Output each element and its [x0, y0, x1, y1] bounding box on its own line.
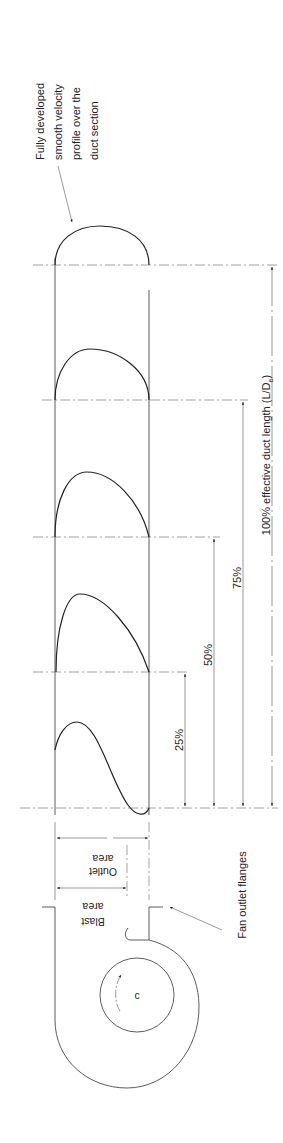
fan-housing — [42, 907, 199, 1088]
label-100-pct: 100% effective duct length (L/De) — [260, 375, 274, 535]
label-50-pct: 50% — [202, 644, 214, 666]
profile-100 — [55, 226, 149, 265]
svg-text:area: area — [82, 901, 103, 913]
svg-text:area: area — [92, 853, 113, 865]
profile-75 — [55, 349, 149, 400]
svg-text:duct section: duct section — [88, 101, 100, 160]
dimension-arrows — [185, 267, 272, 806]
velocity-profiles — [55, 226, 149, 814]
outlet-area-dimension: area Outlet — [57, 838, 148, 878]
svg-text:profile over the: profile over the — [70, 87, 82, 160]
fan-outlet-flanges-note: Fan outlet flanges — [170, 851, 248, 939]
impeller: c — [100, 958, 174, 1032]
fully-developed-note: Fully developed smooth velocity profile … — [34, 83, 100, 222]
svg-text:c: c — [134, 989, 139, 1001]
svg-text:Outlet: Outlet — [89, 866, 117, 878]
label-25-pct: 25% — [173, 729, 185, 751]
rotation-arrow-icon — [116, 975, 121, 1011]
profile-25 — [56, 594, 149, 672]
profile-50 — [55, 472, 149, 537]
duct-walls — [55, 258, 149, 900]
fan-duct-velocity-diagram: 25% 50% 75% 100% effective duct length (… — [0, 0, 283, 1143]
label-75-pct: 75% — [231, 567, 243, 589]
svg-text:Blast: Blast — [81, 916, 104, 928]
svg-text:Fan outlet flanges: Fan outlet flanges — [236, 851, 248, 939]
svg-text:Fully developed: Fully developed — [34, 83, 46, 160]
blast-area-dimension: area Blast — [57, 845, 127, 928]
profile-fan-outlet — [55, 722, 149, 814]
svg-text:smooth velocity: smooth velocity — [52, 84, 64, 160]
